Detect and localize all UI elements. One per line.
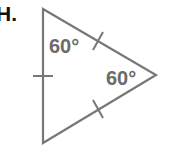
triangle-outline xyxy=(43,9,156,143)
triangle-figure xyxy=(0,0,173,148)
tick-mark-upper-side xyxy=(93,32,103,50)
angle-label-right: 60° xyxy=(106,68,136,88)
angle-label-top: 60° xyxy=(49,36,79,56)
